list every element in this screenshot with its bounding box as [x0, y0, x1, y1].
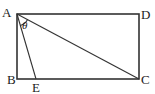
label-e: E [32, 80, 40, 94]
label-theta: θ [22, 19, 28, 31]
label-a: A [2, 5, 12, 20]
label-c: C [141, 72, 150, 87]
label-b: B [7, 72, 16, 87]
diagonal-ac [17, 14, 139, 79]
geometry-diagram: A D B C E θ [0, 0, 155, 94]
label-d: D [141, 7, 150, 22]
